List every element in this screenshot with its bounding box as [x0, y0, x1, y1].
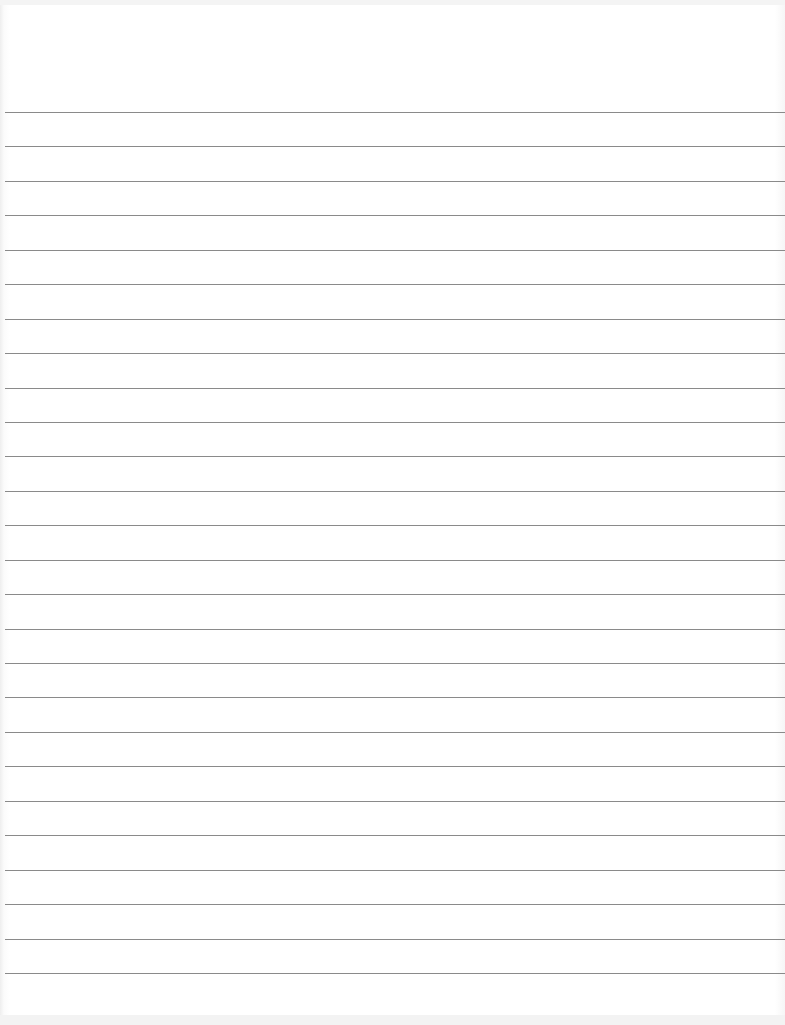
paper-top-edge: [0, 0, 785, 5]
ruled-line: [5, 870, 785, 871]
ruled-line: [5, 284, 785, 285]
ruled-line: [5, 629, 785, 630]
ruled-line: [5, 491, 785, 492]
ruled-line: [5, 973, 785, 974]
ruled-line: [5, 663, 785, 664]
ruled-line: [5, 697, 785, 698]
ruled-line: [5, 904, 785, 905]
ruled-line: [5, 353, 785, 354]
ruled-line: [5, 525, 785, 526]
ruled-line: [5, 319, 785, 320]
ruled-line: [5, 939, 785, 940]
ruled-line: [5, 181, 785, 182]
ruled-line: [5, 732, 785, 733]
paper-bottom-edge: [0, 1015, 785, 1025]
ruled-line: [5, 560, 785, 561]
ruled-line: [5, 456, 785, 457]
ruled-line: [5, 250, 785, 251]
ruled-line: [5, 388, 785, 389]
ruled-line: [5, 422, 785, 423]
ruled-line: [5, 112, 785, 113]
ruled-line: [5, 594, 785, 595]
ruled-line: [5, 801, 785, 802]
ruled-line: [5, 835, 785, 836]
ruled-line: [5, 766, 785, 767]
ruled-line: [5, 215, 785, 216]
ruled-line: [5, 146, 785, 147]
lined-paper-sheet: [0, 0, 785, 1025]
